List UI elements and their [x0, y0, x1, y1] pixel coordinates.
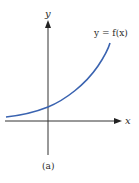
x-axis-label: x	[125, 115, 131, 126]
y-axis-label: y	[44, 8, 51, 19]
curve-label: y = f(x)	[93, 28, 128, 38]
y-axis-arrow-icon	[45, 20, 51, 28]
x-axis-arrow-icon	[114, 118, 122, 124]
figure-caption: (a)	[42, 161, 54, 171]
curve-f-of-x	[6, 43, 110, 117]
function-graph: y x y = f(x) (a)	[0, 0, 139, 183]
